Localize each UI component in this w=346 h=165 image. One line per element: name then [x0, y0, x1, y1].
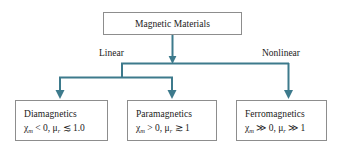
arrowhead-paramagnetics [168, 90, 177, 99]
mu-subscript: r [58, 127, 61, 134]
mu-relation: ≲ 1.0 [63, 123, 85, 133]
leaf-node-formula: χm ≫ 0, μr ≫ 1 [245, 122, 326, 133]
mu-relation: ≳ 1 [175, 123, 190, 133]
edge-label-linear: Linear [99, 48, 124, 58]
mu-symbol: μ [53, 123, 58, 133]
chi-relation: > 0, [147, 123, 162, 133]
mu-relation: ≫ 1 [288, 123, 305, 133]
leaf-node-formula: χm > 0, μr ≳ 1 [136, 122, 216, 133]
leaf-node-title: Ferromagnetics [245, 109, 326, 119]
arrowhead-ferromagnetics [284, 90, 293, 99]
leaf-node-title: Diamagnetics [24, 109, 107, 119]
mu-subscript: r [283, 127, 286, 134]
leaf-node-formula: χm < 0, μr ≲ 1.0 [24, 122, 107, 133]
arrowhead-diamagnetics [56, 90, 65, 99]
mu-subscript: r [170, 127, 173, 134]
chi-relation: < 0, [35, 123, 50, 133]
leaf-node-diamagnetics: Diamagnetics χm < 0, μr ≲ 1.0 [15, 100, 108, 141]
leaf-node-ferromagnetics: Ferromagnetics χm ≫ 0, μr ≫ 1 [236, 100, 327, 141]
chi-subscript: m [140, 127, 145, 134]
leaf-node-paramagnetics: Paramagnetics χm > 0, μr ≳ 1 [127, 100, 217, 141]
chi-subscript: m [249, 127, 254, 134]
mu-symbol: μ [165, 123, 170, 133]
chi-subscript: m [28, 127, 33, 134]
magnetic-materials-flowchart: Magnetic Materials Linear Nonlinear Diam… [0, 0, 346, 165]
leaf-node-title: Paramagnetics [136, 109, 216, 119]
root-node-label: Magnetic Materials [135, 19, 210, 29]
edge-label-nonlinear: Nonlinear [262, 48, 300, 58]
chi-relation: ≫ 0, [256, 123, 276, 133]
root-node-magnetic-materials: Magnetic Materials [103, 12, 242, 35]
